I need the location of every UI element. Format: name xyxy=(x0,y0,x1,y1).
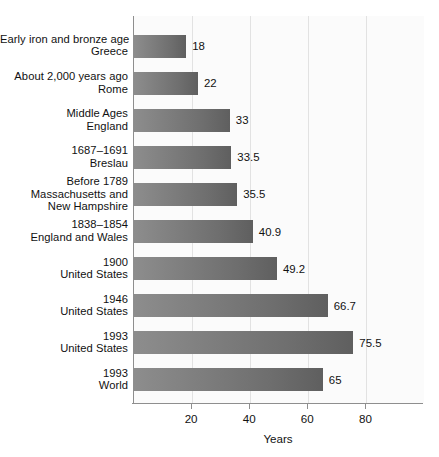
bar xyxy=(134,72,198,95)
category-label-line: United States xyxy=(0,342,128,355)
category-label-line: Before 1789 xyxy=(0,175,128,188)
category-label-line: Breslau xyxy=(0,157,128,170)
category-label-column: Early iron and bronze ageGreeceAbout 2,0… xyxy=(0,16,128,403)
bar-value-label: 35.5 xyxy=(237,188,265,200)
x-axis-tick-label: 40 xyxy=(243,412,256,425)
bar xyxy=(134,146,231,169)
plot-area: 18223333.535.540.949.266.775.565 xyxy=(133,16,424,403)
bar-value-label: 66.7 xyxy=(328,300,356,312)
category-label-line: 1993 xyxy=(0,367,128,380)
bar xyxy=(134,331,353,354)
bar-row: 33.5 xyxy=(134,146,424,169)
category-label: Middle AgesEngland xyxy=(0,107,128,132)
category-label-line: England and Wales xyxy=(0,231,128,244)
bar-value-label: 75.5 xyxy=(353,337,381,349)
category-label-line: 1900 xyxy=(0,256,128,269)
bar-value-label: 33.5 xyxy=(231,151,259,163)
x-axis-tick-label: 20 xyxy=(185,412,198,425)
bar-row: 49.2 xyxy=(134,257,424,280)
category-label-line: New Hampshire xyxy=(0,200,128,213)
category-label: 1946United States xyxy=(0,293,128,318)
category-label-line: 1838–1854 xyxy=(0,218,128,231)
x-axis-tick xyxy=(365,403,366,409)
bar-row: 18 xyxy=(134,35,424,58)
bar-value-label: 49.2 xyxy=(277,263,305,275)
category-label-line: England xyxy=(0,120,128,133)
bar-row: 75.5 xyxy=(134,331,424,354)
category-label: 1993United States xyxy=(0,330,128,355)
category-label-line: Middle Ages xyxy=(0,107,128,120)
bar-row: 66.7 xyxy=(134,294,424,317)
category-label: 1687–1691Breslau xyxy=(0,144,128,169)
bar xyxy=(134,368,323,391)
bar-row: 35.5 xyxy=(134,183,424,206)
bar-value-label: 22 xyxy=(198,77,217,89)
x-axis-tick xyxy=(191,403,192,409)
x-axis-line xyxy=(132,403,423,404)
bar xyxy=(134,109,230,132)
category-label-line: Rome xyxy=(0,83,128,96)
plot-inner: 18223333.535.540.949.266.775.565 xyxy=(134,16,424,403)
category-label-line: About 2,000 years ago xyxy=(0,70,128,83)
bar-chart: Early iron and bronze ageGreeceAbout 2,0… xyxy=(0,0,439,457)
bar-value-label: 65 xyxy=(323,374,342,386)
category-label-line: 1993 xyxy=(0,330,128,343)
bar xyxy=(134,257,277,280)
x-axis-tick-label: 80 xyxy=(359,412,372,425)
category-label-line: Greece xyxy=(0,45,128,58)
bar-value-label: 33 xyxy=(230,114,249,126)
bar xyxy=(134,35,186,58)
x-axis-tick xyxy=(249,403,250,409)
bar-row: 65 xyxy=(134,368,424,391)
bar xyxy=(134,220,253,243)
category-label-line: United States xyxy=(0,305,128,318)
category-label-line: 1687–1691 xyxy=(0,144,128,157)
category-label: 1993World xyxy=(0,367,128,392)
bar-row: 22 xyxy=(134,72,424,95)
category-label: About 2,000 years agoRome xyxy=(0,70,128,95)
x-axis-title: Years xyxy=(133,432,423,445)
x-axis-tick xyxy=(307,403,308,409)
bar-row: 40.9 xyxy=(134,220,424,243)
bar-value-label: 40.9 xyxy=(253,226,281,238)
category-label-line: Massachusetts and xyxy=(0,188,128,201)
category-label-line: Early iron and bronze age xyxy=(0,33,128,46)
category-label-line: 1946 xyxy=(0,293,128,306)
category-label: Before 1789Massachusetts andNew Hampshir… xyxy=(0,175,128,213)
bar xyxy=(134,183,237,206)
category-label: 1838–1854England and Wales xyxy=(0,218,128,243)
bar-value-label: 18 xyxy=(186,40,205,52)
category-label: Early iron and bronze ageGreece xyxy=(0,33,128,58)
category-label-line: World xyxy=(0,379,128,392)
bar-row: 33 xyxy=(134,109,424,132)
category-label-line: United States xyxy=(0,268,128,281)
x-axis-tick-label: 60 xyxy=(301,412,314,425)
category-label: 1900United States xyxy=(0,256,128,281)
bar xyxy=(134,294,328,317)
